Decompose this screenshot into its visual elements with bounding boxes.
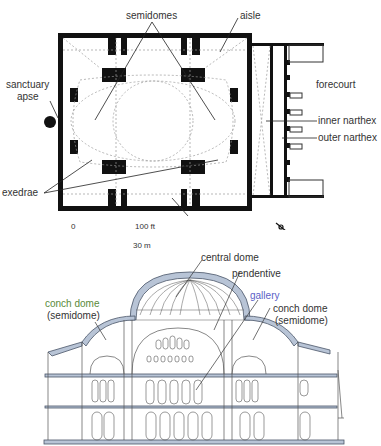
- hagia-sophia-diagram: semidomes aisle sanctuary apse forecourt…: [0, 0, 381, 446]
- scale-100ft: 100 ft: [135, 221, 155, 232]
- label-exedrae: exedrae: [2, 187, 38, 198]
- cross-section: [0, 0, 381, 446]
- label-forecourt: forecourt: [316, 79, 355, 90]
- label-conch-dome-left: conch dome: [45, 298, 99, 309]
- scale-30m: 30 m: [133, 240, 151, 251]
- label-semidomes: semidomes: [126, 10, 177, 21]
- label-conch-dome-right: conch dome: [273, 303, 327, 314]
- label-inner-narthex: inner narthex: [318, 115, 376, 126]
- label-sanctuary: sanctuary: [6, 79, 49, 90]
- label-semidome-left: (semidome): [47, 310, 100, 321]
- label-semidome-right: (semidome): [275, 315, 328, 326]
- label-central-dome: central dome: [201, 252, 259, 263]
- scale-zero: 0: [71, 221, 75, 232]
- label-pendentive: pendentive: [232, 268, 281, 279]
- label-outer-narthex: outer narthex: [318, 132, 377, 143]
- label-gallery: gallery: [250, 290, 279, 301]
- label-apse: apse: [17, 91, 39, 102]
- label-aisle: aisle: [240, 10, 261, 21]
